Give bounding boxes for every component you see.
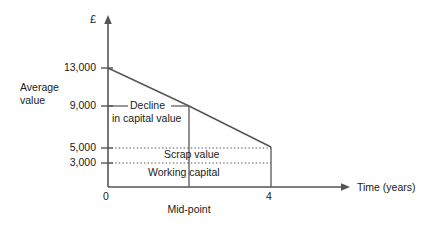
y-axis-title-line1: Average xyxy=(20,81,59,93)
x-axis-title: Time (years) xyxy=(357,181,416,194)
x-tick-label-midpoint: Mid-point xyxy=(157,203,221,216)
y-axis-title-line2: value xyxy=(20,94,45,106)
y-axis xyxy=(104,15,112,187)
y-axis-arrowhead xyxy=(104,15,112,24)
y-axis-currency-symbol: £ xyxy=(90,13,96,26)
y-tick-label-5000: 5,000 xyxy=(70,141,96,154)
chart-figure: £ Averagevalue 13,000 9,000 5,000 3,000 … xyxy=(0,0,445,225)
annotation-decline-line1: Decline xyxy=(130,99,165,112)
y-axis-title: Averagevalue xyxy=(20,81,59,107)
x-tick-label-origin: 0 xyxy=(103,190,109,203)
y-tick-label-13000: 13,000 xyxy=(64,61,96,74)
y-tick-label-9000: 9,000 xyxy=(70,99,96,112)
annotation-scrap-value: Scrap value xyxy=(164,148,219,161)
annotation-working-capital: Working capital xyxy=(148,166,220,179)
annotation-decline-line2: in capital value xyxy=(112,112,181,125)
x-tick-label-four: 4 xyxy=(266,190,272,203)
x-axis-arrowhead xyxy=(341,183,350,191)
y-tick-label-3000: 3,000 xyxy=(70,156,96,169)
x-axis xyxy=(108,183,350,191)
